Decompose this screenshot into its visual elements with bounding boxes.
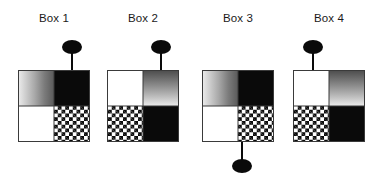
pin-stem: [71, 52, 73, 72]
quadrant-bottom-left: [19, 106, 54, 141]
pin-head-icon: [232, 159, 252, 173]
box-group-1: Box 1: [6, 0, 102, 181]
quadrant-bottom-right: [54, 106, 89, 141]
box-square-4: [293, 70, 365, 142]
quadrant-top-right: [238, 71, 273, 106]
quadrant-top-left: [19, 71, 54, 106]
quadrant-bottom-left: [108, 106, 143, 141]
box-label-3: Box 3: [190, 12, 286, 25]
quadrant-top-left: [108, 71, 143, 106]
quadrant-bottom-left: [203, 106, 238, 141]
box-square-2: [107, 70, 179, 142]
quadrant-top-left: [294, 71, 329, 106]
quadrant-top-right: [143, 71, 178, 106]
box-label-2: Box 2: [95, 12, 191, 25]
box-square-1: [18, 70, 90, 142]
pin-stem: [241, 140, 243, 160]
pin-marker-4: [303, 40, 323, 72]
box-square-3: [202, 70, 274, 142]
quadrant-top-left: [203, 71, 238, 106]
quadrant-bottom-right: [329, 106, 364, 141]
box-group-2: Box 2: [95, 0, 191, 181]
quadrant-bottom-right: [143, 106, 178, 141]
pin-marker-2: [151, 40, 171, 72]
pin-stem: [160, 52, 162, 72]
pin-marker-1: [62, 40, 82, 72]
quadrant-bottom-right: [238, 106, 273, 141]
box-group-3: Box 3: [190, 0, 286, 181]
quadrant-bottom-left: [294, 106, 329, 141]
box-label-1: Box 1: [6, 12, 102, 25]
box-group-4: Box 4: [281, 0, 377, 181]
figure-canvas: Box 1 Box 2 Box 3: [0, 0, 381, 181]
box-label-4: Box 4: [281, 12, 377, 25]
pin-stem: [312, 52, 314, 72]
quadrant-top-right: [329, 71, 364, 106]
pin-marker-3: [232, 140, 252, 174]
quadrant-top-right: [54, 71, 89, 106]
